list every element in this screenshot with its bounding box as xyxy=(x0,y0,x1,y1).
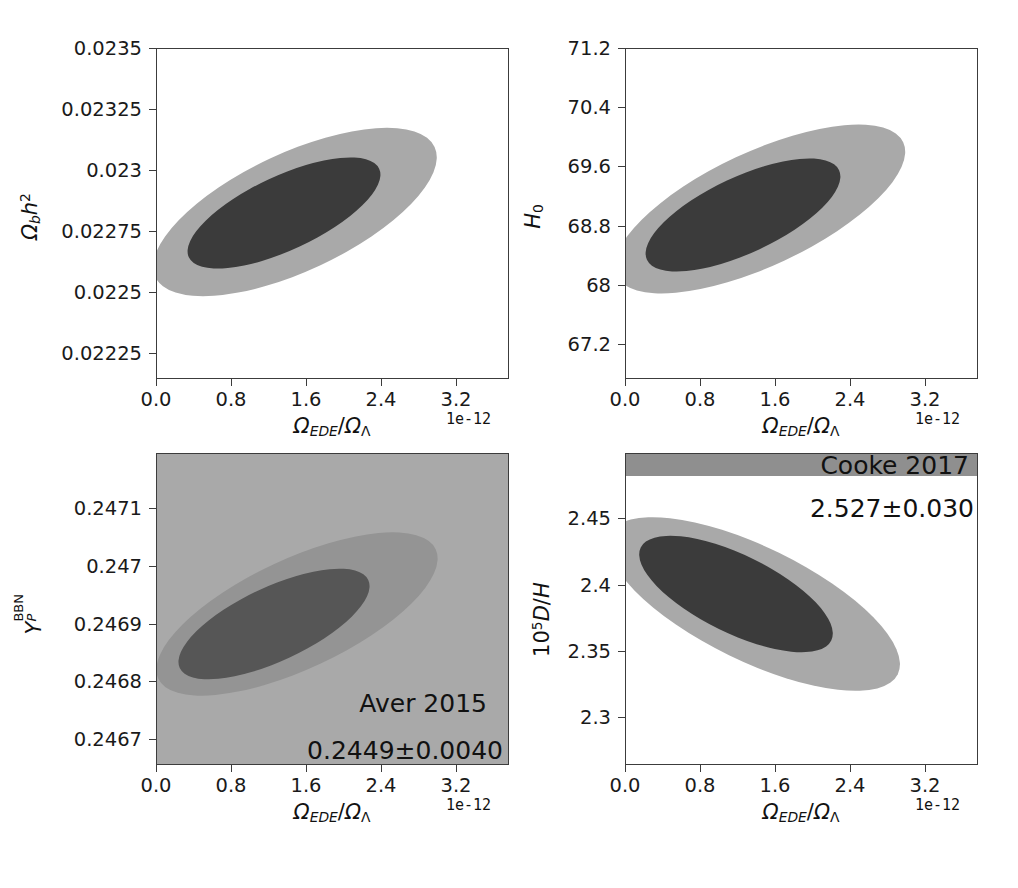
xtick-label: 0.0 xyxy=(116,390,196,410)
xaxis-offset-text: 1e-12 xyxy=(915,798,960,813)
ytick-label: 0.02325 xyxy=(30,100,142,120)
xtick-label: 0.0 xyxy=(116,776,196,796)
yaxis-label-YpBBN: YBBNP xyxy=(20,527,45,717)
xtick-mark xyxy=(306,765,307,772)
ytick-mark xyxy=(618,166,625,167)
ytick-mark xyxy=(149,109,156,110)
xtick-label: 3.2 xyxy=(885,390,965,410)
xaxis-label-YpBBN: ΩEDE/ΩΛ xyxy=(232,802,432,825)
annotation-cooke-2017-value: 2.527±0.030 xyxy=(659,496,974,521)
xtick-label: 2.4 xyxy=(810,776,890,796)
ytick-mark xyxy=(618,585,625,586)
xtick-mark xyxy=(156,765,157,772)
xaxis-offset-text: 1e-12 xyxy=(446,412,491,427)
xtick-mark xyxy=(625,379,626,386)
ytick-label: 0.023 xyxy=(30,161,142,181)
ytick-mark xyxy=(149,624,156,625)
ytick-mark xyxy=(618,48,625,49)
xtick-label: 0.0 xyxy=(585,776,665,796)
xaxis-offset-text: 1e-12 xyxy=(915,412,960,427)
annotation-aver-2015-value: 0.2449±0.0040 xyxy=(190,738,503,763)
contour-shapes-H0 xyxy=(626,49,978,379)
panel-DoverH: 2.45 2.4 2.35 2.3 0.0 0.8 1.6 2.4 3.2 1e… xyxy=(509,444,1018,888)
panel-H0: 71.2 70.4 69.6 68.8 68 67.2 0.0 0.8 1.6 … xyxy=(509,0,1018,444)
xaxis-label-omega-b-h2: ΩEDE/ΩΛ xyxy=(232,416,432,439)
xtick-mark xyxy=(381,379,382,386)
contour-shapes-YpBBN xyxy=(157,454,509,765)
xtick-label: 2.4 xyxy=(341,390,421,410)
xtick-mark xyxy=(231,765,232,772)
xtick-label: 3.2 xyxy=(416,390,496,410)
xtick-mark xyxy=(306,379,307,386)
xaxis-offset-text: 1e-12 xyxy=(446,798,491,813)
ytick-label: 0.0235 xyxy=(30,39,142,59)
ytick-label: 70.4 xyxy=(519,98,611,118)
xtick-mark xyxy=(775,765,776,772)
ytick-mark xyxy=(149,508,156,509)
ytick-label: 67.2 xyxy=(519,335,611,355)
ytick-mark xyxy=(618,107,625,108)
xtick-mark xyxy=(625,765,626,772)
xtick-label: 0.8 xyxy=(191,776,271,796)
plot-area-YpBBN xyxy=(156,453,509,765)
xaxis-label-DoverH: ΩEDE/ΩΛ xyxy=(701,802,901,825)
ytick-mark xyxy=(149,739,156,740)
ytick-label: 0.2471 xyxy=(32,499,142,519)
ytick-mark xyxy=(618,285,625,286)
yaxis-label-H0: H0 xyxy=(523,151,546,281)
annotation-cooke-2017: Cooke 2017 xyxy=(659,453,969,478)
annotation-aver-2015: Aver 2015 xyxy=(190,691,487,716)
ytick-mark xyxy=(618,226,625,227)
ytick-mark xyxy=(149,231,156,232)
xtick-label: 1.6 xyxy=(735,776,815,796)
xtick-mark xyxy=(850,765,851,772)
xtick-label: 0.8 xyxy=(660,776,740,796)
xtick-label: 0.0 xyxy=(585,390,665,410)
ytick-label: 0.02225 xyxy=(30,344,142,364)
xtick-label: 1.6 xyxy=(266,390,346,410)
xtick-mark xyxy=(456,379,457,386)
yaxis-label-DoverH: 105D/H xyxy=(531,535,552,705)
xtick-mark xyxy=(925,765,926,772)
ytick-mark xyxy=(618,717,625,718)
plot-area-omega-b-h2 xyxy=(156,48,509,379)
ytick-label: 0.2469 xyxy=(32,615,142,635)
panel-YpBBN: 0.2471 0.247 0.2469 0.2468 0.2467 0.0 0.… xyxy=(0,444,509,888)
ytick-mark xyxy=(149,48,156,49)
xtick-label: 2.4 xyxy=(810,390,890,410)
xtick-label: 3.2 xyxy=(885,776,965,796)
ytick-mark xyxy=(149,681,156,682)
contour-shapes-omega-b-h2 xyxy=(157,49,509,379)
xaxis-label-H0: ΩEDE/ΩΛ xyxy=(701,416,901,439)
ytick-mark xyxy=(149,170,156,171)
ytick-label: 0.2468 xyxy=(32,672,142,692)
xtick-label: 0.8 xyxy=(191,390,271,410)
xtick-label: 0.8 xyxy=(660,390,740,410)
xtick-mark xyxy=(456,765,457,772)
ytick-label: 0.02275 xyxy=(30,222,142,242)
xtick-label: 1.6 xyxy=(735,390,815,410)
ytick-mark xyxy=(149,353,156,354)
panel-omega-b-h2: 0.0235 0.02325 0.023 0.02275 0.0225 0.02… xyxy=(0,0,509,444)
xtick-mark xyxy=(925,379,926,386)
xtick-mark xyxy=(156,379,157,386)
xtick-label: 3.2 xyxy=(416,776,496,796)
ytick-label: 71.2 xyxy=(519,39,611,59)
ytick-label: 0.247 xyxy=(32,557,142,577)
ytick-mark xyxy=(149,292,156,293)
ytick-label: 2.3 xyxy=(523,708,611,728)
ytick-label: 2.45 xyxy=(523,509,611,529)
ytick-mark xyxy=(149,566,156,567)
yaxis-label-omega-b-h2: Ωbh2 xyxy=(19,122,42,312)
xtick-mark xyxy=(700,765,701,772)
ytick-mark xyxy=(618,518,625,519)
ytick-mark xyxy=(618,651,625,652)
contour-figure: 0.0235 0.02325 0.023 0.02275 0.0225 0.02… xyxy=(0,0,1018,888)
xtick-mark xyxy=(700,379,701,386)
xtick-label: 2.4 xyxy=(341,776,421,796)
xtick-mark xyxy=(775,379,776,386)
xtick-mark xyxy=(231,379,232,386)
xtick-mark xyxy=(381,765,382,772)
plot-area-H0 xyxy=(625,48,978,379)
ytick-mark xyxy=(618,344,625,345)
